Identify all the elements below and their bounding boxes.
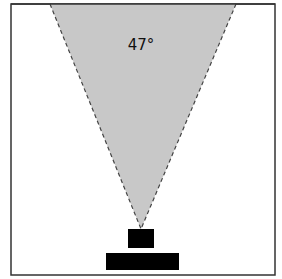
base-block: [106, 253, 179, 270]
field-of-view-diagram: 47°: [0, 0, 282, 279]
angle-label: 47°: [111, 36, 171, 54]
upper-block: [128, 229, 154, 248]
